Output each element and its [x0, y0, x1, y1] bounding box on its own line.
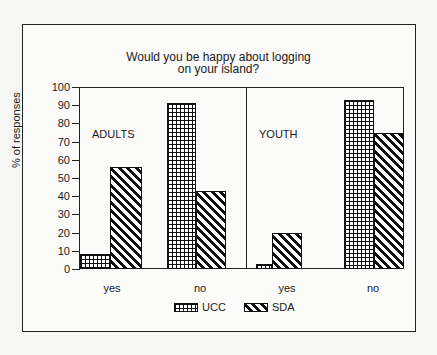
- bar-adults-no-ucc: [167, 103, 196, 269]
- bar-youth-yes-ucc: [256, 264, 272, 269]
- y-axis-label: % of responses: [10, 92, 22, 168]
- y-tick-label: 50: [40, 173, 70, 184]
- legend: UCC SDA: [0, 301, 437, 315]
- bar-youth-no-ucc: [344, 100, 374, 269]
- panel-label-adults: ADULTS: [92, 128, 135, 140]
- y-tick-label: 90: [40, 100, 70, 111]
- y-tick: [72, 269, 80, 270]
- x-label-adults-yes: yes: [92, 282, 132, 294]
- x-label-youth-yes: yes: [267, 282, 307, 294]
- panel-divider: [246, 87, 247, 269]
- y-tick-label: 30: [40, 209, 70, 220]
- bar-adults-yes-ucc: [80, 254, 110, 269]
- legend-label-ucc: UCC: [202, 301, 226, 313]
- legend-swatch-sda: [244, 303, 268, 312]
- y-tick-label: 40: [40, 191, 70, 202]
- bar-adults-no-sda: [196, 191, 226, 269]
- legend-swatch-ucc: [174, 303, 198, 312]
- y-tick-label: 10: [40, 246, 70, 257]
- bar-adults-yes-sda: [110, 167, 142, 269]
- bar-youth-no-sda: [374, 133, 404, 270]
- x-label-youth-no: no: [353, 282, 393, 294]
- y-tick-label: 0: [40, 264, 70, 275]
- y-tick-label: 70: [40, 137, 70, 148]
- chart-title: Would you be happy about logging on your…: [0, 51, 437, 75]
- title-line-2: on your island?: [0, 63, 437, 75]
- panel-label-youth: YOUTH: [259, 128, 298, 140]
- y-tick-label: 100: [40, 82, 70, 93]
- y-tick-label: 20: [40, 228, 70, 239]
- x-label-adults-no: no: [180, 282, 220, 294]
- y-tick-label: 60: [40, 155, 70, 166]
- legend-label-sda: SDA: [272, 301, 295, 313]
- y-tick-label: 80: [40, 118, 70, 129]
- bar-youth-yes-sda: [272, 233, 302, 269]
